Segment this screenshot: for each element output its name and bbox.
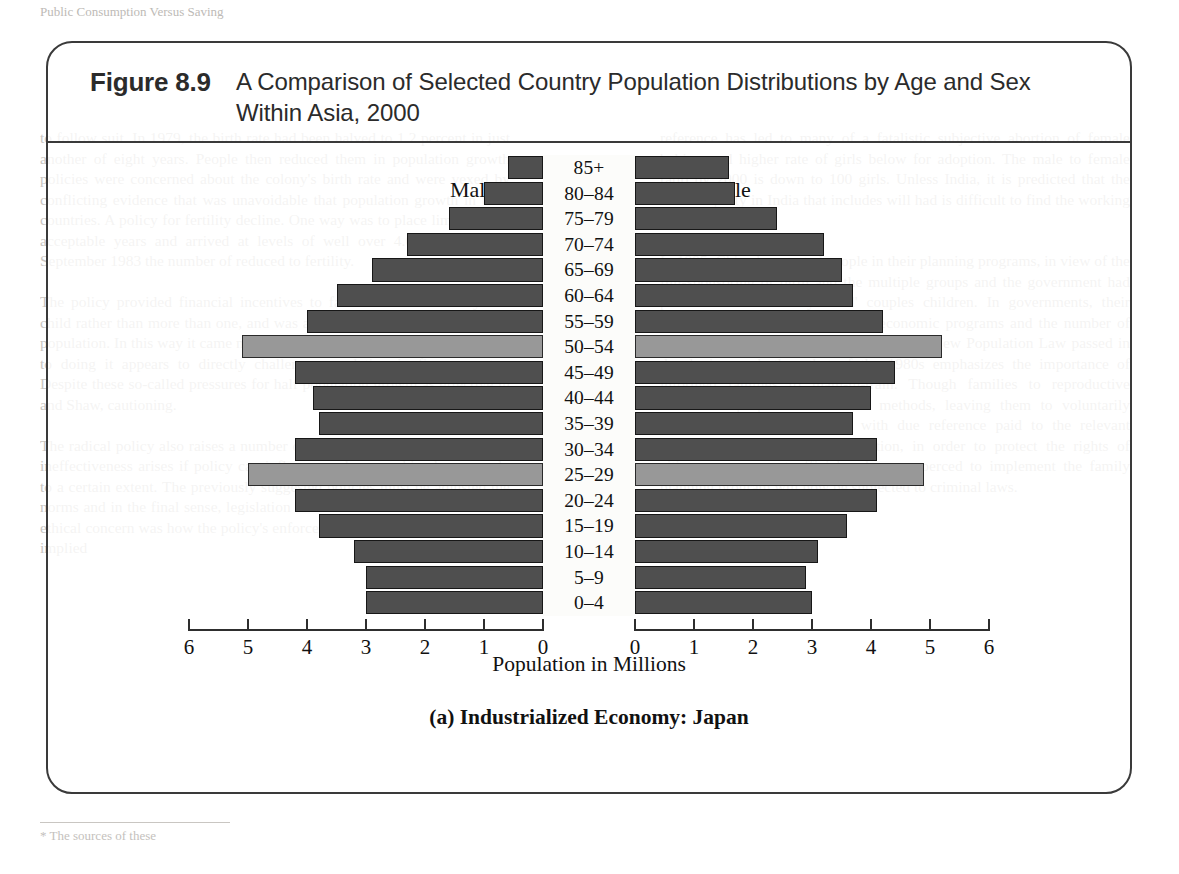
male-bar-cell: [48, 462, 543, 488]
pyramid-row: 85+: [48, 155, 1130, 181]
female-bar: [635, 489, 877, 512]
age-group-label: 15–19: [543, 513, 635, 539]
female-bar-cell: [635, 437, 1130, 463]
female-bar-cell: [635, 360, 1130, 386]
female-bar-cell: [635, 181, 1130, 207]
female-bar: [635, 233, 824, 256]
female-bar-cell: [635, 257, 1130, 283]
male-bar-cell: [48, 513, 543, 539]
male-bar-cell: [48, 411, 543, 437]
female-bar: [635, 591, 812, 614]
age-group-label: 10–14: [543, 539, 635, 565]
age-group-label: 45–49: [543, 360, 635, 386]
age-group-label: 65–69: [543, 257, 635, 283]
pyramid-row: 25–29: [48, 462, 1130, 488]
axis-tick: [306, 619, 308, 631]
axis-tick: [811, 619, 813, 631]
male-bar: [295, 489, 543, 512]
female-bar: [635, 361, 895, 384]
age-group-label: 75–79: [543, 206, 635, 232]
axis-tick: [752, 619, 754, 631]
female-bar: [635, 207, 777, 230]
age-group-label: 25–29: [543, 462, 635, 488]
footnote-rule: [40, 822, 230, 823]
axis-tick: [188, 619, 190, 631]
age-group-label: 40–44: [543, 385, 635, 411]
age-group-label: 0–4: [543, 590, 635, 616]
axis-tick: [247, 619, 249, 631]
pyramid-row: 65–69: [48, 257, 1130, 283]
figure-card: Figure 8.9 A Comparison of Selected Coun…: [46, 41, 1132, 794]
age-group-label: 85+: [543, 155, 635, 181]
population-pyramid-plot: Male Female 85+80–8475–7970–7465–6960–64…: [48, 145, 1130, 792]
male-bar-cell: [48, 206, 543, 232]
age-group-label: 70–74: [543, 232, 635, 258]
age-group-label: 20–24: [543, 488, 635, 514]
axis-tick: [693, 619, 695, 631]
pyramid-row: 40–44: [48, 385, 1130, 411]
pyramid-row: 15–19: [48, 513, 1130, 539]
female-bar-cell: [635, 539, 1130, 565]
female-bar-cell: [635, 155, 1130, 181]
figure-header: Figure 8.9 A Comparison of Selected Coun…: [48, 43, 1130, 143]
female-bar: [635, 284, 853, 307]
female-bar-cell: [635, 488, 1130, 514]
male-bar: [242, 335, 543, 358]
female-bar-cell: [635, 462, 1130, 488]
axis-tick: [870, 619, 872, 631]
age-group-label: 80–84: [543, 181, 635, 207]
male-bar: [449, 207, 543, 230]
female-bar: [635, 310, 883, 333]
male-bar-cell: [48, 283, 543, 309]
male-bar: [354, 540, 543, 563]
male-bar-cell: [48, 334, 543, 360]
male-bar: [295, 438, 543, 461]
pyramid-row: 50–54: [48, 334, 1130, 360]
x-axis-left-half: 6543210: [189, 619, 543, 635]
pyramid-row: 70–74: [48, 232, 1130, 258]
male-bar: [319, 412, 543, 435]
female-bar: [635, 412, 853, 435]
male-bar: [313, 386, 543, 409]
female-bar-cell: [635, 232, 1130, 258]
male-bar-cell: [48, 539, 543, 565]
female-bar: [635, 463, 924, 486]
male-bar-cell: [48, 155, 543, 181]
age-group-label: 50–54: [543, 334, 635, 360]
female-bar-cell: [635, 334, 1130, 360]
pyramid-row: 5–9: [48, 565, 1130, 591]
figure-title: A Comparison of Selected Country Populat…: [236, 66, 1076, 128]
male-bar: [295, 361, 543, 384]
axis-tick: [634, 619, 636, 631]
male-bar-cell: [48, 232, 543, 258]
male-bar: [366, 566, 543, 589]
female-bar: [635, 514, 847, 537]
female-bar: [635, 540, 818, 563]
pyramid-row: 10–14: [48, 539, 1130, 565]
male-bar: [508, 156, 543, 179]
male-bar: [366, 591, 543, 614]
female-bar: [635, 258, 842, 281]
male-bar: [407, 233, 543, 256]
female-bar: [635, 182, 735, 205]
female-bar-cell: [635, 309, 1130, 335]
age-group-label: 35–39: [543, 411, 635, 437]
pyramid-row: 55–59: [48, 309, 1130, 335]
female-bar-cell: [635, 283, 1130, 309]
figure-caption: (a) Industrialized Economy: Japan: [48, 705, 1130, 730]
axis-tick: [365, 619, 367, 631]
female-bar-cell: [635, 590, 1130, 616]
figure-number: Figure 8.9: [90, 67, 211, 98]
axis-tick: [542, 619, 544, 631]
axis-tick: [988, 619, 990, 631]
page-running-head: Public Consumption Versus Saving: [40, 2, 224, 23]
male-bar-cell: [48, 385, 543, 411]
male-bar: [372, 258, 543, 281]
male-bar-cell: [48, 590, 543, 616]
pyramid-row: 0–4: [48, 590, 1130, 616]
male-bar-cell: [48, 309, 543, 335]
male-bar-cell: [48, 360, 543, 386]
male-bar-cell: [48, 437, 543, 463]
pyramid-row: 80–84: [48, 181, 1130, 207]
male-bar-cell: [48, 565, 543, 591]
